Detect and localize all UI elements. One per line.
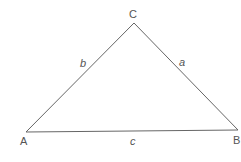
side-label-b: b <box>80 57 86 69</box>
triangle-diagram: A B C a b c <box>0 0 241 162</box>
vertex-label-b: B <box>233 134 240 146</box>
triangle-shape <box>26 23 238 132</box>
side-label-c: c <box>130 135 136 147</box>
vertex-label-a: A <box>20 135 28 147</box>
side-label-a: a <box>179 56 185 68</box>
vertex-label-c: C <box>129 8 137 20</box>
